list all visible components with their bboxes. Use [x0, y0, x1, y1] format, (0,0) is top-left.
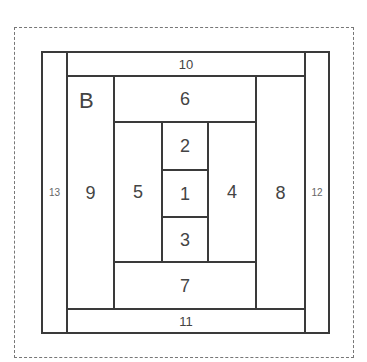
piece-12: 12: [304, 51, 330, 334]
piece-5: 5: [113, 121, 163, 263]
piece-6: 6: [113, 75, 257, 123]
piece-number-label: 7: [180, 277, 190, 295]
piece-number-label: 2: [180, 137, 190, 155]
piece-number-label: 13: [49, 188, 60, 198]
piece-number-label: 9: [85, 184, 95, 202]
piece-number-label: 4: [227, 183, 237, 201]
piece-3: 3: [161, 216, 209, 263]
piece-13: 13: [41, 51, 68, 334]
piece-8: 8: [255, 75, 306, 310]
piece-number-label: 1: [180, 185, 190, 203]
piece-number-label: 10: [179, 58, 193, 71]
piece-2: 2: [161, 121, 209, 171]
piece-number-label: 3: [180, 231, 190, 249]
piece-7: 7: [113, 261, 257, 310]
piece-11: 11: [66, 308, 306, 334]
piece-number-label: 12: [311, 188, 322, 198]
piece-4: 4: [207, 121, 257, 263]
piece-number-label: 6: [180, 90, 190, 108]
piece-number-label: 5: [133, 183, 143, 201]
piece-number-label: 8: [275, 184, 285, 202]
piece-1: 1: [161, 169, 209, 218]
piece-10: 10: [66, 51, 306, 77]
piece-number-label: 11: [179, 315, 193, 328]
block-letter-label: B: [79, 90, 94, 112]
